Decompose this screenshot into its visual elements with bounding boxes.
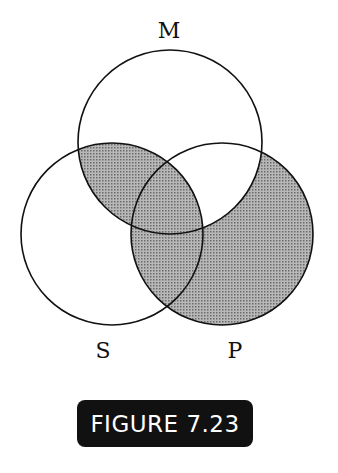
- venn-figure: M S P FIGURE 7.23: [0, 0, 338, 473]
- label-m: M: [158, 18, 181, 43]
- label-s: S: [95, 338, 110, 363]
- figure-caption-badge: FIGURE 7.23: [77, 400, 253, 447]
- label-p: P: [228, 338, 243, 363]
